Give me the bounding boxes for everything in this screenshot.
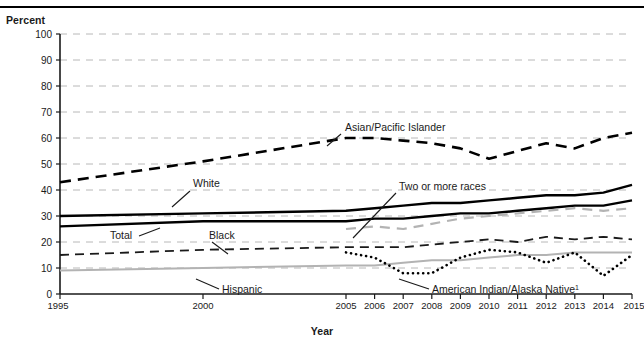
- y-axis-tick-label: 10: [41, 263, 53, 274]
- x-axis-tick-label: 2007: [393, 300, 414, 311]
- y-axis-tick-label: 60: [41, 133, 53, 144]
- x-axis-tick-label: 2010: [478, 300, 499, 311]
- x-axis-tick-label: 2012: [536, 300, 557, 311]
- x-axis-ticks-group: 1995200020052006200720082009201020112012…: [47, 294, 644, 311]
- series-label: White: [193, 177, 220, 189]
- y-axis-tick-label: 50: [41, 159, 53, 170]
- x-axis-tick-label: 2006: [364, 300, 385, 311]
- series-line: [60, 133, 632, 182]
- series-label: Black: [209, 229, 235, 241]
- label-leader-line: [212, 242, 228, 254]
- x-axis-tick-label: 1995: [47, 300, 68, 311]
- label-leader-line: [172, 191, 190, 207]
- y-axis-tick-label: 90: [41, 55, 53, 66]
- chart-figure: Percent Year 0102030405060708090100 1995…: [0, 0, 644, 348]
- series-label: American Indian/Alaska Native1: [432, 283, 579, 295]
- x-axis-tick-label: 2011: [507, 300, 527, 311]
- x-axis-tick-label: 2000: [192, 300, 213, 311]
- series-label: Two or more races: [399, 180, 486, 192]
- x-axis-tick-label: 2014: [593, 300, 614, 311]
- y-axis-tick-label: 20: [41, 237, 53, 248]
- x-axis-tick-label: 2009: [450, 300, 471, 311]
- label-leader-line: [139, 228, 160, 236]
- series-label: Asian/Pacific Islander: [345, 121, 446, 133]
- y-axis-ticks-group: 0102030405060708090100: [35, 29, 60, 300]
- series-line: [346, 250, 632, 276]
- y-axis-tick-label: 80: [41, 81, 53, 92]
- data-series-group: [60, 133, 632, 276]
- series-label: Total: [110, 229, 132, 241]
- series-line: [60, 185, 632, 216]
- label-leader-line: [196, 279, 219, 289]
- y-axis-tick-label: 70: [41, 107, 53, 118]
- x-axis-tick-label: 2005: [335, 300, 356, 311]
- y-axis-tick-label: 0: [46, 289, 52, 300]
- y-axis-tick-label: 40: [41, 185, 53, 196]
- label-leader-line: [399, 279, 429, 289]
- footnote-marker: 1: [575, 284, 579, 291]
- series-label: Hispanic: [222, 283, 262, 295]
- line-chart-plot: 0102030405060708090100 19952000200520062…: [0, 0, 644, 348]
- y-axis-tick-label: 30: [41, 211, 53, 222]
- x-axis-tick-label: 2013: [564, 300, 585, 311]
- y-axis-tick-label: 100: [35, 29, 52, 40]
- x-axis-tick-label: 2008: [421, 300, 442, 311]
- x-axis-tick-label: 2015: [623, 300, 644, 311]
